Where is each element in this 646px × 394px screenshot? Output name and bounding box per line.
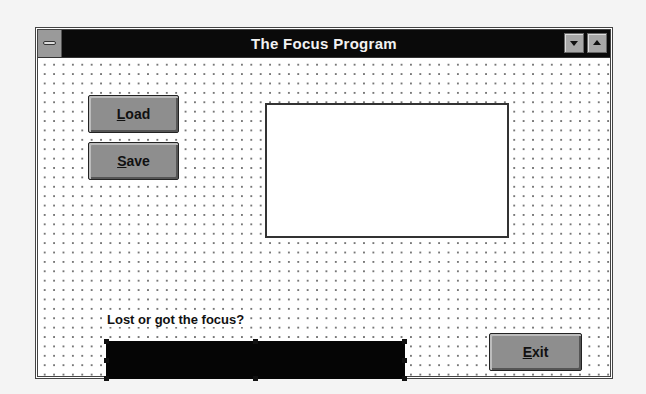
maximize-arrow-icon <box>593 40 601 45</box>
save-button[interactable]: Save <box>88 142 179 180</box>
maximize-button[interactable] <box>587 33 607 53</box>
resize-handle-e[interactable] <box>402 358 407 363</box>
title-bar[interactable]: The Focus Program <box>38 30 610 58</box>
resize-handle-sw[interactable] <box>104 376 109 381</box>
resize-handle-nw[interactable] <box>104 339 109 344</box>
resize-handle-ne[interactable] <box>402 339 407 344</box>
exit-label: xit <box>532 344 548 360</box>
load-label: oad <box>125 106 150 122</box>
app-window: The Focus Program Load Save Lost or got … <box>35 27 613 379</box>
resize-handle-w[interactable] <box>104 358 109 363</box>
save-accelerator: S <box>117 153 126 169</box>
minimize-button[interactable] <box>564 33 584 53</box>
resize-handle-n[interactable] <box>253 339 258 344</box>
minimize-arrow-icon <box>570 41 578 46</box>
resize-handle-se[interactable] <box>402 376 407 381</box>
load-accelerator: L <box>117 106 126 122</box>
resize-handle-s[interactable] <box>253 376 258 381</box>
exit-button[interactable]: Exit <box>489 333 582 371</box>
save-label: ave <box>126 153 149 169</box>
focus-textbox[interactable] <box>106 341 405 379</box>
exit-accelerator: E <box>523 344 532 360</box>
load-button[interactable]: Load <box>88 95 179 133</box>
picture-box[interactable] <box>265 103 509 238</box>
focus-label: Lost or got the focus? <box>105 312 248 327</box>
window-title: The Focus Program <box>38 35 610 52</box>
form-design-grid: Load Save Lost or got the focus? Exit <box>38 58 610 376</box>
